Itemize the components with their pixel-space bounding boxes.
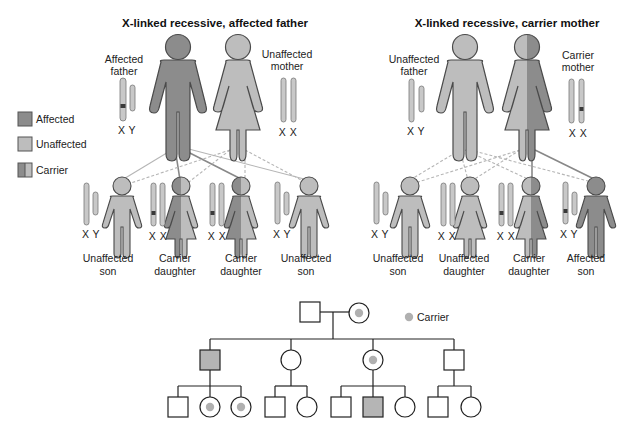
mother-label-line1: Carrier — [562, 49, 595, 61]
mother-chromosomes-icon — [281, 78, 296, 122]
child-label-line2: son — [578, 265, 595, 277]
chromosome-label: X X — [149, 230, 167, 242]
child-label-line1: Unaffected — [373, 252, 424, 264]
y-chromosome-icon — [284, 192, 289, 215]
pedigree-gen2-male — [444, 350, 464, 370]
unaffected-swatch-icon — [18, 137, 32, 151]
father-label-line1: Affected — [105, 53, 143, 65]
father-chromosome-label: X Y — [407, 125, 425, 137]
carrier-dot-icon — [405, 313, 413, 321]
panel-title: X-linked recessive, carrier mother — [415, 17, 600, 29]
inheritance-lines — [410, 150, 592, 182]
child-label-line2: daughter — [508, 265, 550, 277]
pedigree-gen3-male — [331, 397, 351, 417]
pedigree-gen3-female — [297, 397, 317, 417]
child-label-line1: Carrier — [513, 252, 546, 264]
child-unaffected-son: X Y Unaffected son — [273, 177, 332, 277]
legend-item-unaffected: Unaffected — [18, 137, 87, 151]
panel-carrier-mother: X-linked recessive, carrier mother Unaff… — [371, 17, 616, 277]
chromosome-label: X Y — [273, 228, 291, 240]
x-chromosome-icon — [84, 183, 89, 225]
chromosome-label: X Y — [371, 228, 389, 240]
chromosome-label: X X — [438, 230, 456, 242]
inheritance-diagram: Affected Unaffected Carrier X-linked rec… — [0, 0, 628, 425]
x-chromosome-icon — [160, 183, 165, 226]
child-unaffected-son: X Y Unaffected son — [371, 177, 430, 277]
mother-label-line2: mother — [271, 60, 304, 72]
child-label-line2: daughter — [220, 265, 262, 277]
carrier-swatch-icon — [18, 163, 25, 177]
father-label-line1: Unaffected — [389, 53, 440, 65]
pedigree-gen3-female — [395, 397, 415, 417]
father-chromosomes-icon — [120, 78, 135, 121]
pedigree-gen2-female — [281, 350, 301, 370]
father-label-line2: father — [401, 65, 428, 77]
child-label-line1: Unaffected — [83, 252, 134, 264]
child-label-line2: son — [298, 265, 315, 277]
pedigree-gen2-male-affected — [200, 350, 220, 370]
mother-figure-carrier — [503, 35, 552, 162]
pedigree-chart: Carrier — [168, 302, 481, 417]
panel-affected-father: X-linked recessive, affected father Affe… — [82, 17, 332, 277]
legend-label-affected: Affected — [36, 113, 74, 125]
child-label-line1: Carrier — [159, 252, 192, 264]
child-label-line2: son — [390, 265, 407, 277]
inheritance-lines — [122, 148, 308, 185]
x-chromosome-icon — [374, 182, 379, 224]
affected-swatch-icon — [18, 112, 32, 126]
x-chromosome-icon — [508, 183, 513, 226]
legend-label-carrier: Carrier — [36, 164, 69, 176]
child-label-line2: son — [100, 265, 117, 277]
legend-item-affected: Affected — [18, 112, 74, 126]
father-figure-affected — [150, 35, 207, 162]
x-chromosome-icon — [151, 183, 156, 226]
x-chromosome-icon — [275, 182, 280, 224]
x-chromosome-icon — [563, 182, 568, 224]
pedigree-gen1-male — [300, 302, 320, 322]
child-carrier-daughter: X X Carrier daughter — [208, 177, 262, 277]
carrier-dot-icon — [369, 356, 377, 364]
child-label-line2: daughter — [443, 265, 485, 277]
father-figure-unaffected — [437, 35, 494, 162]
x-chromosome-icon — [499, 183, 504, 226]
x-chromosome-icon — [450, 183, 455, 226]
mother-label-line1: Unaffected — [262, 48, 313, 60]
x-chromosome-icon — [210, 183, 215, 226]
pedigree-gen3-male — [168, 397, 188, 417]
child-label-line2: daughter — [154, 265, 196, 277]
legend-item-carrier: Carrier — [18, 163, 69, 177]
mother-chromosomes-icon — [569, 79, 584, 123]
child-unaffected-son: X Y Unaffected son — [82, 177, 142, 277]
legend: Affected Unaffected Carrier — [18, 112, 87, 177]
mother-chromosome-label: X X — [279, 126, 297, 138]
pedigree-legend-carrier: Carrier — [417, 311, 450, 323]
father-label-line2: father — [111, 65, 138, 77]
father-chromosomes-icon — [409, 79, 424, 122]
chromosome-label: X Y — [560, 228, 578, 240]
child-label-line1: Carrier — [225, 252, 258, 264]
mother-label-line2: mother — [562, 61, 595, 73]
child-affected-son: X Y Affected son — [560, 177, 616, 277]
child-carrier-daughter: X X Carrier daughter — [497, 177, 550, 277]
pedigree-gen3-male — [428, 397, 448, 417]
y-chromosome-icon — [93, 192, 98, 215]
y-chromosome-icon — [383, 192, 388, 215]
mother-figure-unaffected — [214, 35, 263, 162]
child-label-line1: Affected — [567, 252, 605, 264]
child-label-line1: Unaffected — [281, 252, 332, 264]
y-chromosome-icon — [572, 192, 577, 215]
pedigree-gen3-female — [461, 397, 481, 417]
chromosome-label: X X — [208, 230, 226, 242]
x-chromosome-icon — [441, 183, 446, 226]
x-chromosome-icon — [219, 183, 224, 226]
child-label-line1: Unaffected — [439, 252, 490, 264]
panel-title: X-linked recessive, affected father — [122, 17, 309, 29]
chromosome-label: X X — [497, 230, 515, 242]
father-chromosome-label: X Y — [118, 124, 136, 136]
child-carrier-daughter: X X Carrier daughter — [149, 177, 198, 277]
chromosome-label: X Y — [82, 228, 100, 240]
child-unaffected-daughter: X X Unaffected daughter — [438, 177, 490, 277]
legend-label-unaffected: Unaffected — [36, 138, 87, 150]
carrier-dot-icon — [237, 403, 245, 411]
pedigree-gen3-male — [265, 397, 285, 417]
